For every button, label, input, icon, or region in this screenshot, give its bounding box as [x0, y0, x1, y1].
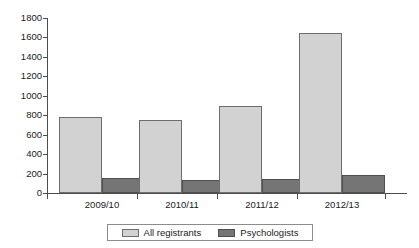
y-tick-label: 1400 [21, 52, 42, 62]
y-tick-label: 1000 [21, 91, 42, 101]
bar-all-registrants [59, 117, 102, 193]
legend-label: All registrants [144, 228, 202, 238]
x-tick-label: 2011/12 [245, 200, 279, 210]
y-tick-label: 200 [26, 169, 42, 179]
y-tick-label: 1200 [21, 72, 42, 82]
x-tick-mark [297, 194, 298, 199]
legend-swatch-icon [218, 229, 235, 237]
bar-psychologists [342, 175, 385, 193]
x-tick-label: 2010/11 [165, 200, 199, 210]
x-tick-mark [385, 194, 386, 199]
chart-legend: All registrants Psychologists [107, 224, 313, 241]
bar-all-registrants [139, 120, 182, 193]
legend-entry-psychologists: Psychologists [218, 228, 298, 238]
y-tick-label: 600 [26, 130, 42, 140]
legend-entry-all-registrants: All registrants [122, 228, 202, 238]
x-axis-line [47, 193, 407, 194]
x-tick-mark [137, 194, 138, 199]
y-tick-label: 800 [26, 110, 42, 120]
bar-all-registrants [219, 106, 262, 194]
y-tick-label: 0 [37, 188, 42, 198]
bar-all-registrants [299, 33, 342, 193]
x-tick-label: 2009/10 [85, 200, 119, 210]
y-tick-label: 400 [26, 149, 42, 159]
y-tick-label: 1800 [21, 13, 42, 23]
x-tick-mark [47, 194, 48, 199]
x-tick-mark [217, 194, 218, 199]
y-tick-label: 1600 [21, 33, 42, 43]
bar-chart-figure: 0 200 400 600 800 1000 1200 1400 1600 18… [0, 0, 419, 248]
y-axis: 0 200 400 600 800 1000 1200 1400 1600 18… [0, 0, 42, 248]
x-tick-label: 2012/13 [325, 200, 359, 210]
plot-area [47, 18, 405, 193]
legend-swatch-icon [122, 229, 139, 237]
legend-label: Psychologists [240, 228, 298, 238]
